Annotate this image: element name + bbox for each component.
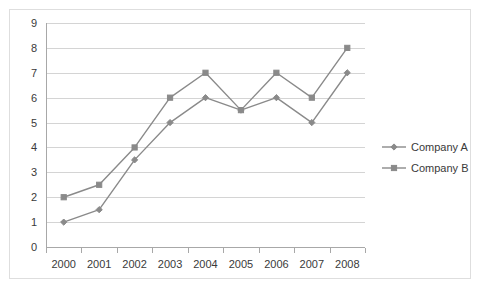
chart-container: 0123456789 20002001200220032004200520062… bbox=[9, 9, 471, 279]
y-tick-label-7: 7 bbox=[31, 67, 37, 79]
x-tick-label-2003: 2003 bbox=[158, 258, 182, 270]
data-point-company-b-2006 bbox=[274, 70, 279, 75]
legend-marker-diamond-icon bbox=[391, 144, 397, 150]
data-series-group bbox=[61, 45, 351, 225]
y-tick-label-1: 1 bbox=[31, 216, 37, 228]
data-point-company-b-2002 bbox=[132, 145, 137, 150]
legend-label-1: Company A bbox=[411, 141, 469, 153]
y-axis-tick-labels: 0123456789 bbox=[31, 17, 37, 253]
legend-item-company-b[interactable]: Company B bbox=[382, 162, 468, 174]
data-point-company-b-2005 bbox=[238, 108, 243, 113]
x-tick-label-2002: 2002 bbox=[122, 258, 146, 270]
y-tick-label-9: 9 bbox=[31, 17, 37, 29]
x-tick-label-2006: 2006 bbox=[264, 258, 288, 270]
data-point-company-b-2004 bbox=[203, 70, 208, 75]
legend-item-company-a[interactable]: Company A bbox=[382, 141, 469, 153]
data-point-company-b-2003 bbox=[167, 95, 172, 100]
legend-label-2: Company B bbox=[411, 162, 468, 174]
y-tick-label-5: 5 bbox=[31, 117, 37, 129]
x-tick-label-2004: 2004 bbox=[193, 258, 217, 270]
x-axis-tick-labels: 200020012002200320042005200620072008 bbox=[51, 258, 359, 270]
y-tick-label-0: 0 bbox=[31, 241, 37, 253]
data-point-company-b-2000 bbox=[61, 195, 66, 200]
x-tick-label-2000: 2000 bbox=[51, 258, 75, 270]
x-tick-label-2008: 2008 bbox=[335, 258, 359, 270]
data-point-company-a-2000 bbox=[61, 219, 67, 225]
y-tick-label-6: 6 bbox=[31, 92, 37, 104]
y-tick-label-2: 2 bbox=[31, 191, 37, 203]
line-chart: 0123456789 20002001200220032004200520062… bbox=[10, 10, 470, 278]
legend-marker-square-icon bbox=[391, 165, 396, 170]
x-tick-label-2007: 2007 bbox=[300, 258, 324, 270]
chart-legend: Company ACompany B bbox=[382, 141, 469, 174]
gridlines bbox=[46, 24, 365, 248]
data-point-company-b-2008 bbox=[345, 45, 350, 50]
y-tick-label-4: 4 bbox=[31, 141, 37, 153]
data-point-company-b-2001 bbox=[97, 182, 102, 187]
series-company-b bbox=[61, 45, 350, 200]
x-tick-label-2005: 2005 bbox=[229, 258, 253, 270]
y-tick-label-8: 8 bbox=[31, 42, 37, 54]
y-tick-label-3: 3 bbox=[31, 166, 37, 178]
x-tick-label-2001: 2001 bbox=[87, 258, 111, 270]
data-point-company-b-2007 bbox=[309, 95, 314, 100]
x-axis-tick-marks bbox=[47, 248, 366, 253]
